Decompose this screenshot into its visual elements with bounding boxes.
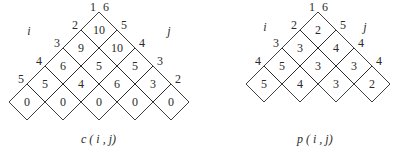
matrix-cell: 4 [282,66,318,102]
matrix-cell: 0 [153,84,189,120]
cell-value: 4 [78,77,84,91]
cell-value: 3 [150,77,156,91]
axis-i-label: i [27,24,30,38]
cell-value: 5 [261,77,267,91]
axis-i-label: i [263,20,266,34]
cell-value: 10 [111,41,123,55]
matrix-cell: 4 [318,30,354,66]
cell-value: 4 [333,41,339,55]
cell-value: 3 [297,41,303,55]
matrix-cell: 4 [63,66,99,102]
c-caption: c ( i , j) [81,132,116,147]
matrix-cell: 3 [300,48,336,84]
matrix-cell: 3 [282,30,318,66]
cell-value: 0 [60,95,66,109]
col-index-label: 5 [121,18,127,32]
matrix-cell: 0 [117,84,153,120]
cell-value: 5 [96,59,102,73]
matrix-cell: 3 [336,48,372,84]
c-matrix-diagram: 109106555463000001234565432ij [9,0,189,120]
cell-value: 0 [96,95,102,109]
matrix-cell: 0 [81,84,117,120]
cell-value: 6 [60,59,66,73]
row-index-label: 3 [273,36,279,50]
matrix-cell: 5 [264,48,300,84]
diagram-canvas: 109106555463000001234565432ij 2345335432… [0,0,397,159]
cell-value: 2 [369,77,375,91]
cell-value: 9 [78,41,84,55]
cell-value: 2 [315,23,321,37]
cell-value: 0 [132,95,138,109]
matrix-cell: 6 [99,66,135,102]
matrix-cell: 5 [27,66,63,102]
cell-value: 0 [24,95,30,109]
cell-value: 10 [93,23,105,37]
cell-value: 3 [315,59,321,73]
col-index-label: 2 [175,72,181,86]
axis-j-label: j [361,20,367,34]
matrix-cell: 5 [246,66,282,102]
row-index-label: 4 [36,54,42,68]
row-index-label: 1 [90,0,96,14]
cell-value: 5 [279,59,285,73]
col-index-label: 5 [340,18,346,32]
cell-value: 0 [168,95,174,109]
matrix-cell: 6 [45,48,81,84]
row-index-label: 2 [291,18,297,32]
row-index-label: 1 [309,0,315,14]
cell-value: 5 [42,77,48,91]
p-caption: p ( i , j) [297,132,333,147]
row-index-label: 2 [72,18,78,32]
col-index-label: 4 [376,54,382,68]
matrix-cell: 0 [9,84,45,120]
matrix-cell: 3 [318,66,354,102]
p-matrix-diagram: 234533543212346544ij [246,0,390,102]
matrix-cell: 3 [135,66,171,102]
col-index-label: 4 [358,36,364,50]
cell-value: 5 [132,59,138,73]
row-index-label: 3 [54,36,60,50]
cell-value: 6 [114,77,120,91]
cell-value: 4 [297,77,303,91]
cell-value: 3 [351,59,357,73]
row-index-label: 4 [255,54,261,68]
cell-value: 3 [333,77,339,91]
col-index-label: 6 [103,0,109,14]
matrix-cell: 2 [300,12,336,48]
col-index-label: 3 [157,54,163,68]
axis-j-label: j [165,24,171,38]
row-index-label: 5 [18,72,24,86]
matrix-cell: 2 [354,66,390,102]
col-index-label: 6 [322,0,328,14]
matrix-cell: 0 [45,84,81,120]
col-index-label: 4 [139,36,145,50]
